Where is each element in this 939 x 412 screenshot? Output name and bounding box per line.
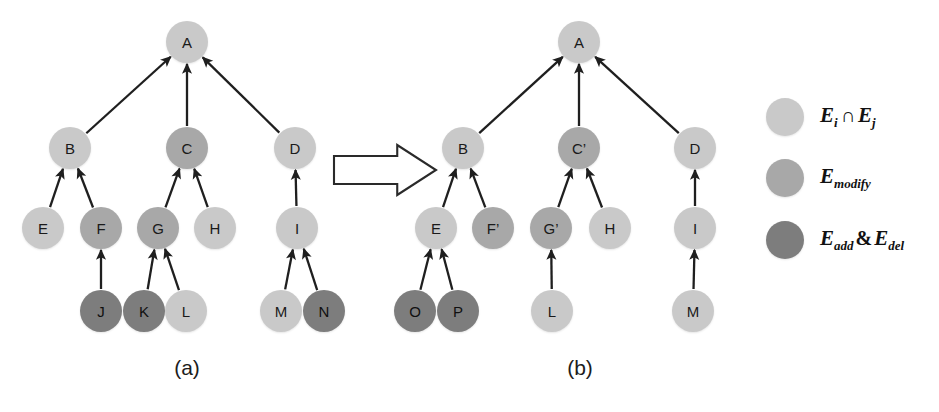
edge-b-H-to-b-C2 (587, 169, 602, 208)
edge-b-E-to-b-B (443, 169, 456, 207)
graph-node-L: L (165, 290, 207, 332)
graph-node-label: L (548, 303, 556, 320)
legend-intersection-label: Ei∩Ej (820, 103, 876, 131)
edge-b-D-to-b-A (595, 57, 679, 133)
graph-node-label: C (182, 140, 193, 157)
graph-node-B: B (49, 127, 91, 169)
legend-add-del-swatch (766, 221, 804, 259)
edge-a-L-to-a-G (165, 249, 179, 290)
edge-b-P-to-b-E (442, 249, 453, 289)
edge-b-O-to-b-E (420, 249, 430, 289)
edge-a-I-to-a-D (296, 170, 297, 206)
graph-node-E: E (415, 207, 457, 249)
graph-node-F: F (80, 207, 122, 249)
graph-node-label: H (210, 220, 221, 237)
legend-token: ∩ (838, 104, 858, 126)
graph-node-M: M (672, 290, 714, 332)
edge-b-B-to-b-A (479, 57, 563, 133)
graph-node-label: I (693, 220, 697, 237)
legend-token: & (854, 227, 875, 249)
graph-node-label: E (431, 220, 441, 237)
edge-a-G-to-a-C (165, 169, 179, 208)
transition-arrow-icon (334, 145, 436, 195)
graph-node-M: M (260, 290, 302, 332)
graph-node-label: D (690, 140, 701, 157)
edges-layer (0, 0, 939, 412)
graph-node-label: B (65, 140, 75, 157)
figure-canvas: ABCDEFGHIJKLMNABC’DEF’G’HIOPLM (a)(b) Ei… (0, 0, 939, 412)
panel-caption-panel-b: (b) (567, 356, 593, 380)
legend-token: E (858, 103, 872, 127)
graph-node-label: P (453, 303, 463, 320)
legend-token: j (872, 115, 876, 130)
edge-b-M-to-b-I (694, 250, 695, 289)
graph-node-Fprime: F’ (472, 207, 514, 249)
legend-intersection-swatch (766, 98, 804, 136)
graph-node-label: I (295, 220, 299, 237)
graph-node-label: H (605, 220, 616, 237)
graph-node-Gprime: G’ (530, 207, 572, 249)
edge-a-D-to-a-A (203, 57, 280, 132)
graph-node-label: K (139, 303, 149, 320)
edge-b-G2-to-b-C2 (558, 169, 571, 207)
graph-node-L: L (531, 290, 573, 332)
graph-node-Cprime: C’ (558, 127, 600, 169)
graph-node-label: A (574, 34, 584, 51)
graph-node-I: I (674, 207, 716, 249)
legend-token: E (820, 226, 834, 250)
graph-node-D: D (274, 127, 316, 169)
graph-node-label: J (97, 303, 105, 320)
graph-node-E: E (22, 207, 64, 249)
legend-token: E (820, 103, 834, 127)
graph-node-label: M (687, 303, 700, 320)
graph-node-label: C’ (572, 140, 586, 157)
edge-a-M-to-a-I (285, 250, 293, 290)
graph-node-label: F (96, 220, 105, 237)
graph-node-label: A (182, 34, 192, 51)
graph-node-N: N (303, 290, 345, 332)
edge-b-F2-to-b-B (471, 169, 486, 208)
graph-node-A: A (166, 21, 208, 63)
graph-node-label: O (409, 303, 421, 320)
graph-node-H: H (194, 207, 236, 249)
graph-node-label: F’ (487, 220, 500, 237)
edge-a-H-to-a-C (194, 169, 207, 207)
legend-modify-label: Emodify (820, 164, 871, 192)
graph-node-P: P (437, 290, 479, 332)
legend-token: E (820, 164, 834, 188)
graph-node-label: N (319, 303, 330, 320)
graph-node-label: G’ (544, 220, 559, 237)
edge-a-F-to-a-B (78, 169, 93, 208)
graph-node-J: J (80, 290, 122, 332)
legend-modify-swatch (766, 159, 804, 197)
panel-caption-panel-a: (a) (174, 356, 200, 380)
legend-token: add (834, 238, 854, 253)
legend-token: E (874, 226, 888, 250)
legend-token: del (888, 238, 904, 253)
graph-node-G: G (137, 207, 179, 249)
graph-node-H: H (589, 207, 631, 249)
graph-node-A: A (558, 21, 600, 63)
graph-node-B: B (442, 127, 484, 169)
edge-a-E-to-a-B (50, 169, 63, 207)
graph-node-label: M (275, 303, 288, 320)
graph-node-label: D (290, 140, 301, 157)
edge-a-N-to-a-I (304, 249, 317, 290)
graph-node-C: C (166, 127, 208, 169)
graph-node-D: D (674, 127, 716, 169)
graph-node-O: O (394, 290, 436, 332)
edge-a-K-to-a-G (148, 250, 155, 290)
graph-node-label: B (458, 140, 468, 157)
graph-node-label: E (38, 220, 48, 237)
graph-node-K: K (123, 290, 165, 332)
edge-a-B-to-a-A (86, 57, 170, 133)
graph-node-label: G (152, 220, 164, 237)
graph-node-I: I (276, 207, 318, 249)
graph-node-label: L (182, 303, 190, 320)
legend-token: modify (834, 176, 871, 191)
legend-add-del-label: Eadd&Edel (820, 226, 904, 254)
